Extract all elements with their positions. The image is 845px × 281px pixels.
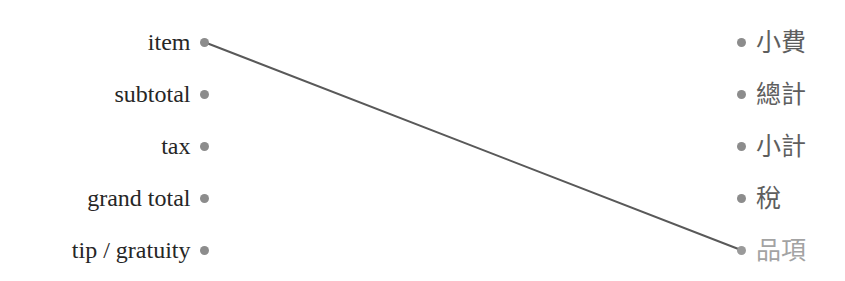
- node-dot-icon-tip-gratuity[interactable]: [200, 246, 209, 255]
- node-dot-icon-tax[interactable]: [737, 194, 746, 203]
- node-dot-icon-tax[interactable]: [200, 142, 209, 151]
- node-label-grand-total: 總計: [746, 82, 807, 107]
- alignment-diagram-canvas: itemsubtotaltaxgrand totaltip / gratuity…: [0, 0, 845, 281]
- node-dot-icon-grand-total[interactable]: [737, 90, 746, 99]
- node-label-tax: 稅: [746, 186, 782, 211]
- node-dot-icon-tip[interactable]: [737, 38, 746, 47]
- node-dot-icon-item[interactable]: [737, 246, 746, 255]
- node-label-subtotal: subtotal: [115, 82, 200, 106]
- node-label-tip: 小費: [746, 30, 807, 55]
- node-dot-icon-subtotal[interactable]: [737, 142, 746, 151]
- node-dot-icon-item[interactable]: [200, 38, 209, 47]
- alignment-edge-item-to-pinxiang: [204, 42, 741, 250]
- node-label-grand-total: grand total: [87, 186, 199, 210]
- node-label-tax: tax: [161, 134, 199, 158]
- node-label-tip-gratuity: tip / gratuity: [72, 238, 200, 262]
- node-label-item: 品項: [746, 238, 807, 263]
- node-dot-icon-grand-total[interactable]: [200, 194, 209, 203]
- node-dot-icon-subtotal[interactable]: [200, 90, 209, 99]
- node-label-item: item: [148, 30, 200, 54]
- node-label-subtotal: 小計: [746, 134, 807, 159]
